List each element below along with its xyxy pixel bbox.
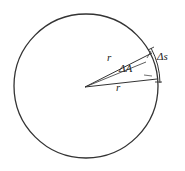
radius-label-lower: r — [116, 82, 120, 93]
circle-sector-diagram — [0, 0, 185, 171]
radius-label-upper: r — [107, 52, 111, 63]
arc-length-label: Δs — [157, 51, 168, 62]
arc-connector-lower — [144, 75, 152, 76]
arc-cap-top-icon — [148, 47, 154, 50]
figure-container: r r ΔA Δs — [0, 0, 185, 171]
central-angle-label: ΔA — [119, 63, 132, 74]
